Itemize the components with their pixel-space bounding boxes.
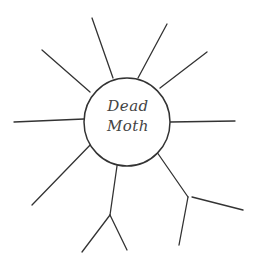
branch-line-right [170,121,235,122]
center-label-line1: Dead [85,96,171,116]
branch-line-lower-right-sub-right [192,197,243,210]
branch-line-bottom-sub-right [110,215,127,250]
branch-line-right-upper [160,52,207,88]
spider-diagram: Dead Moth [0,0,254,267]
branch-line-top-right [138,24,167,78]
branch-line-bottom-sub-left [82,215,110,252]
branch-line-top-left [92,18,113,78]
branch-line-left [14,119,84,122]
branch-line-lower-right-sub-down [179,197,188,245]
branch-line-lower-left [32,141,94,205]
center-label-line2: Moth [85,116,171,136]
center-label: Dead Moth [85,96,171,136]
branch-line-upper-left [42,50,90,92]
